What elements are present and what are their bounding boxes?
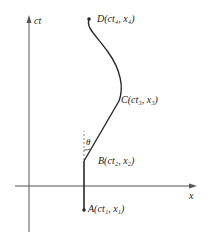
theta-label: θ: [86, 138, 90, 147]
ct-axis-label: ct: [34, 16, 41, 26]
worldline-bc: [84, 101, 119, 161]
point-a-dot: [82, 208, 86, 212]
worldline-cd: [88, 19, 121, 101]
theta-arc: [84, 149, 90, 150]
point-d-dot: [87, 17, 91, 21]
point-a-label: A(ct₁, x₁): [88, 204, 124, 214]
spacetime-diagram: [0, 0, 208, 232]
point-c-label: C(ct₃, x₃): [121, 95, 158, 105]
x-axis-arrow-icon: [189, 184, 197, 189]
point-d-label: D(ct₄, x₄): [97, 14, 135, 24]
ct-axis-arrow-icon: [27, 15, 32, 23]
x-axis-label: x: [189, 191, 193, 201]
point-b-label: B(ct₂, x₂): [98, 156, 134, 166]
